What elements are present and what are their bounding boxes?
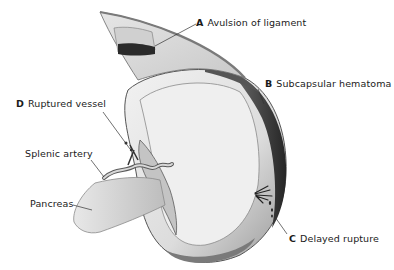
label-ruptured-vessel: DRuptured vessel	[16, 98, 106, 109]
label-letter-B: B	[265, 78, 272, 89]
label-text-pancreas: Pancreas	[30, 198, 73, 209]
leader-line-C	[275, 217, 287, 234]
label-text-D: Ruptured vessel	[28, 98, 106, 109]
label-avulsion-of-ligament: AAvulsion of ligament	[196, 17, 306, 28]
label-text-A: Avulsion of ligament	[207, 17, 306, 28]
label-letter-A: A	[196, 17, 203, 28]
label-text-splenic-artery: Splenic artery	[25, 148, 93, 159]
label-splenic-artery: Splenic artery	[25, 148, 93, 159]
label-pancreas: Pancreas	[30, 198, 73, 209]
avulsed-ligament	[114, 27, 155, 55]
spleen-illustration	[0, 0, 394, 270]
leader-line-splenic-artery	[91, 160, 104, 177]
label-delayed-rupture: CDelayed rupture	[289, 233, 379, 244]
label-letter-D: D	[16, 98, 24, 109]
label-text-C: Delayed rupture	[300, 233, 379, 244]
label-letter-C: C	[289, 233, 296, 244]
label-text-B: Subcapsular hematoma	[276, 78, 391, 89]
label-subcapsular-hematoma: BSubcapsular hematoma	[265, 78, 391, 89]
